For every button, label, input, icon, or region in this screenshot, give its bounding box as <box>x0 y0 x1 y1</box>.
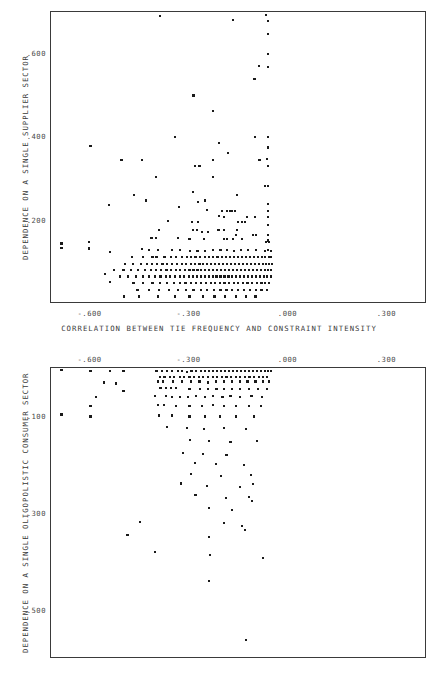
data-point <box>132 282 134 284</box>
data-point <box>245 256 247 258</box>
data-point <box>173 282 175 284</box>
data-point <box>249 256 251 258</box>
data-point <box>154 551 156 553</box>
data-point <box>235 234 237 236</box>
data-point <box>194 165 196 167</box>
data-point <box>161 370 163 372</box>
data-point <box>196 269 198 271</box>
data-point <box>133 194 135 196</box>
data-point <box>239 396 241 398</box>
data-point <box>208 269 210 271</box>
data-point <box>237 289 239 291</box>
data-point <box>249 289 251 291</box>
data-point <box>236 194 238 196</box>
data-point <box>255 275 257 277</box>
data-point <box>200 275 202 277</box>
data-point <box>258 159 260 161</box>
data-point <box>214 263 216 265</box>
data-point <box>227 152 229 154</box>
data-point <box>238 263 240 265</box>
data-point <box>148 249 150 251</box>
data-point <box>173 376 175 378</box>
data-point <box>151 282 153 284</box>
data-point <box>230 263 232 265</box>
data-point <box>109 370 111 372</box>
data-point <box>212 256 214 258</box>
data-point <box>155 237 157 239</box>
data-point <box>155 370 157 372</box>
data-point <box>208 536 210 538</box>
data-point <box>199 388 201 390</box>
data-point <box>242 263 244 265</box>
data-point <box>216 269 218 271</box>
data-point <box>165 269 167 271</box>
data-point <box>157 295 159 297</box>
data-point <box>220 475 222 477</box>
data-point <box>245 428 247 430</box>
data-point <box>235 405 237 407</box>
data-point <box>253 78 255 80</box>
data-point <box>254 263 256 265</box>
data-point <box>194 256 196 258</box>
y-axis-tick-label: .300 <box>27 508 46 517</box>
data-point <box>195 395 197 397</box>
data-point <box>196 229 198 231</box>
data-point <box>231 380 233 382</box>
data-point <box>252 483 254 485</box>
data-point <box>140 263 142 265</box>
data-point <box>177 237 179 239</box>
data-point <box>208 507 210 509</box>
data-point <box>215 275 217 277</box>
data-point <box>242 282 244 284</box>
data-point <box>175 269 177 271</box>
data-point <box>174 275 176 277</box>
data-point <box>251 500 253 502</box>
data-point <box>251 282 253 284</box>
data-point <box>268 282 270 284</box>
data-point <box>180 482 182 484</box>
data-point <box>179 249 181 251</box>
data-point <box>248 388 250 390</box>
data-point <box>265 241 267 243</box>
data-point <box>95 396 97 398</box>
x-axis-tick-label: .000 <box>278 355 297 364</box>
data-point <box>170 387 172 389</box>
data-point <box>260 289 262 291</box>
data-point <box>254 380 256 382</box>
data-point <box>254 216 256 218</box>
data-point <box>253 376 255 378</box>
data-point <box>163 404 165 406</box>
data-point <box>226 238 228 240</box>
data-point <box>192 94 194 96</box>
top-scatter-panel: DEPENDENCE ON A SINGLE SUPPLIER SECTOR .… <box>0 0 438 345</box>
top-x-axis-title: CORRELATION BETWEEN TIE FREQUENCY AND CO… <box>61 324 377 333</box>
data-point <box>171 396 173 398</box>
data-point <box>256 440 258 442</box>
data-point <box>171 370 173 372</box>
data-point <box>267 234 269 236</box>
data-point <box>222 263 224 265</box>
data-point <box>204 250 206 252</box>
data-point <box>165 395 167 397</box>
data-point <box>159 275 161 277</box>
data-point <box>262 376 264 378</box>
data-point <box>104 273 106 275</box>
data-point <box>219 289 221 291</box>
data-point <box>168 289 170 291</box>
data-point <box>183 275 185 277</box>
data-point <box>196 250 198 252</box>
data-point <box>204 415 206 417</box>
data-point <box>200 370 202 372</box>
data-point <box>267 216 269 218</box>
data-point <box>212 376 214 378</box>
data-point <box>146 263 148 265</box>
data-point <box>206 289 208 291</box>
data-point <box>212 370 214 372</box>
data-point <box>171 249 173 251</box>
data-point <box>88 241 90 243</box>
data-point <box>257 388 259 390</box>
data-point <box>156 263 158 265</box>
data-point <box>241 256 243 258</box>
data-point <box>181 263 183 265</box>
data-point <box>255 249 257 251</box>
